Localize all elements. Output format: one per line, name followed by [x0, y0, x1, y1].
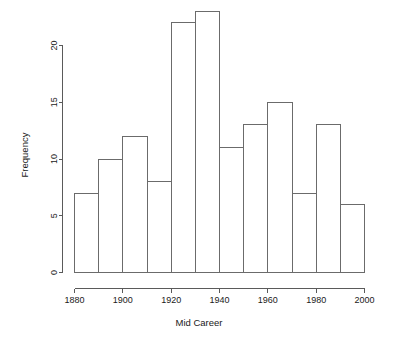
x-axis-tick-label: 1880 [64, 295, 84, 305]
x-axis-tick-label: 2000 [354, 295, 374, 305]
y-axis-tick-label: 5 [49, 213, 59, 218]
histogram-bar [292, 193, 316, 272]
y-axis-tick-label: 20 [49, 40, 59, 50]
histogram-bar [220, 148, 244, 273]
histogram-bar [75, 193, 99, 272]
histogram-bar [316, 125, 340, 273]
x-axis-tick-label: 1980 [306, 295, 326, 305]
histogram-bar [171, 23, 195, 273]
histogram-bar [195, 11, 219, 272]
histogram-bar [268, 102, 292, 272]
x-axis-tick-label: 1940 [209, 295, 229, 305]
y-axis-tick-label: 15 [49, 97, 59, 107]
y-axis-tick-label: 0 [49, 270, 59, 275]
histogram-bar [123, 136, 147, 272]
histogram-bar [244, 125, 268, 273]
x-axis-tick-label: 1960 [258, 295, 278, 305]
y-axis-tick-label: 10 [49, 154, 59, 164]
histogram-bar [147, 182, 171, 273]
x-axis-tick-label: 1900 [113, 295, 133, 305]
histogram-svg: 05101520 1880190019201940196019802000 Mi… [0, 0, 397, 347]
histogram-bar [99, 159, 123, 273]
histogram-bar [340, 204, 364, 272]
y-axis-title: Frequency [19, 132, 30, 177]
x-axis-tick-label: 1920 [161, 295, 181, 305]
histogram-chart: 05101520 1880190019201940196019802000 Mi… [0, 0, 397, 347]
x-axis-title: Mid Career [176, 317, 223, 328]
